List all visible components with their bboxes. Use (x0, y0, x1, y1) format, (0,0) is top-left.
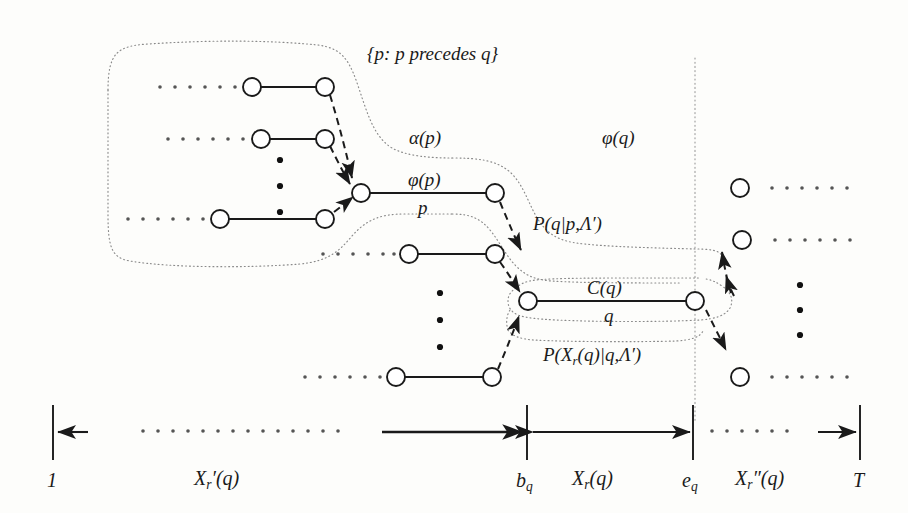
axis-label-eq: eq (682, 470, 698, 494)
vdots-p-set (277, 157, 283, 215)
axis-eq-sub: q (691, 479, 698, 494)
axis-bq-sub: q (526, 479, 533, 494)
node-circles (211, 78, 751, 386)
arrow-q-to-succ3 (706, 310, 726, 350)
node-succ-row2 (733, 231, 751, 249)
time-axis (53, 405, 860, 460)
label-p-set-title: {p: p precedes q} (367, 44, 498, 63)
arrow-p-row2-to-p (330, 146, 350, 184)
arrow-q-pred-to-q (500, 262, 520, 292)
node-q-lower-left (387, 368, 405, 386)
label-phi-p: φ(p) (408, 170, 441, 189)
ellipsis-axis-right (710, 429, 789, 433)
transition-arrows (330, 95, 734, 369)
axis-xr-prime-main: X (194, 467, 206, 489)
axis-xr-main: X (572, 467, 584, 489)
label-P-Xr-part2: (q)|q,Λ′) (578, 344, 642, 365)
node-p-left (352, 184, 370, 202)
node-p-set-row2-left (252, 130, 270, 148)
axis-xr-prime-tail: ′(q) (212, 467, 240, 489)
node-p-set-row3-right (316, 210, 334, 228)
node-p-set-row2-right (316, 130, 334, 148)
axis-bq-main: b (516, 469, 526, 491)
ellipsis-succ-row2 (773, 238, 852, 242)
vdots-q-group (437, 290, 443, 350)
label-P-Xr-part1: P(X (543, 344, 573, 365)
label-P-Xr-given-q: P(Xr(q)|q,Λ′) (543, 345, 641, 368)
diagram-svg (0, 0, 908, 513)
axis-label-xr-dprime: Xr″(q) (735, 468, 784, 492)
arrow-q-to-succ1 (722, 252, 731, 293)
node-p-set-row1-left (243, 78, 261, 96)
node-succ-row3 (731, 368, 749, 386)
ellipsis-p-row3 (126, 217, 205, 221)
axis-label-xr: Xr(q) (572, 468, 613, 492)
ellipsis-succ-row3 (770, 375, 849, 379)
axis-eq-main: e (682, 469, 691, 491)
axis-label-xr-prime: Xr′(q) (194, 468, 239, 492)
ellipsis-succ-row1 (770, 186, 849, 190)
node-q-pred-left (400, 245, 418, 263)
axis-xr-dprime-tail: ″(q) (753, 467, 785, 489)
enclosure-p-set (108, 41, 452, 267)
label-phi-q: φ(q) (602, 128, 635, 147)
figure-canvas: {p: p precedes q} α(p) φ(q) φ(p) p P(q|p… (0, 0, 908, 513)
label-alpha-p: α(p) (409, 128, 441, 147)
axis-xr-tail: (q) (590, 467, 613, 489)
node-q-lower-right (483, 368, 501, 386)
label-q: q (604, 306, 614, 325)
label-P-q-given-p: P(q|p,Λ′) (533, 214, 602, 233)
ellipsis-p-row2 (166, 137, 245, 141)
arrow-q-lower-to-q (498, 316, 519, 369)
node-p-set-row1-right (316, 78, 334, 96)
node-p-set-row3-left (211, 210, 229, 228)
node-q-left (519, 292, 537, 310)
axis-label-bq: bq (516, 470, 533, 494)
ellipsis-q-row2 (303, 375, 382, 379)
arrow-p-to-q-pred (500, 202, 521, 250)
axis-xr-dprime-main: X (735, 467, 747, 489)
node-q-right (686, 292, 704, 310)
arrow-p-row3-to-p (334, 197, 353, 212)
node-q-pred-right (486, 245, 504, 263)
axis-label-1: 1 (47, 470, 57, 490)
vdots-succ (797, 282, 803, 338)
node-succ-row1 (731, 179, 749, 197)
label-C-q: C(q) (587, 278, 622, 297)
label-p: p (418, 198, 428, 217)
node-p-right (486, 184, 504, 202)
ellipsis-axis-left (141, 429, 340, 433)
axis-label-T: T (853, 470, 864, 490)
ellipsis-p-row1 (158, 85, 237, 89)
